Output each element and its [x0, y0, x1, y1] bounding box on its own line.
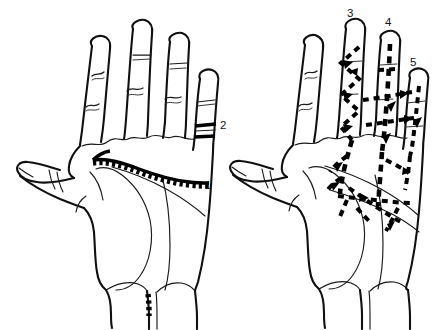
label-4: 4 [385, 17, 391, 29]
figure-root: 1 2 3 4 5 [0, 0, 433, 330]
left-little-finger-band-upper [195, 124, 216, 126]
hands-illustration [0, 0, 433, 330]
left-little-finger-band-lower [194, 136, 215, 137]
label-5: 5 [410, 57, 416, 69]
label-1: 1 [205, 180, 211, 192]
label-2: 2 [220, 120, 226, 132]
label-3: 3 [347, 8, 353, 20]
figure-background [0, 0, 433, 330]
